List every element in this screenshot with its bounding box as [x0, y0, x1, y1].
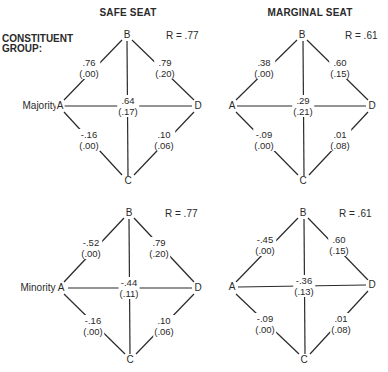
edge-ab-label: -.45(.00): [254, 234, 276, 256]
panel-minority-marginal: A B C D R = .61 -.45(.00) .60(.15) -.36(…: [0, 0, 388, 372]
edge-bd-label: .60(.15): [328, 234, 350, 256]
node-b: B: [299, 208, 308, 218]
node-c: C: [299, 355, 308, 365]
edge-cd-label: .01(.08): [330, 313, 352, 335]
edge-center-label: -.36(.13): [293, 275, 315, 297]
node-d: D: [367, 280, 376, 290]
node-a: A: [228, 282, 237, 292]
edge-ac-label: -.09(.00): [254, 313, 276, 335]
r-value: R = .61: [339, 208, 372, 219]
